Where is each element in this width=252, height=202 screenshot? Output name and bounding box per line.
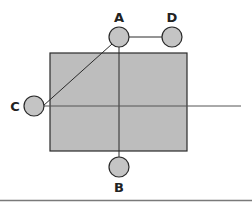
node-c-label: C: [10, 99, 20, 114]
node-d-label: D: [167, 10, 178, 25]
node-c-circle: [24, 96, 44, 116]
diagram-canvas: A D C B: [0, 0, 252, 202]
node-a-circle: [109, 27, 129, 47]
node-b-circle: [109, 157, 129, 177]
node-d-circle: [162, 27, 182, 47]
node-a-label: A: [114, 10, 124, 25]
node-b-label: B: [114, 180, 124, 195]
